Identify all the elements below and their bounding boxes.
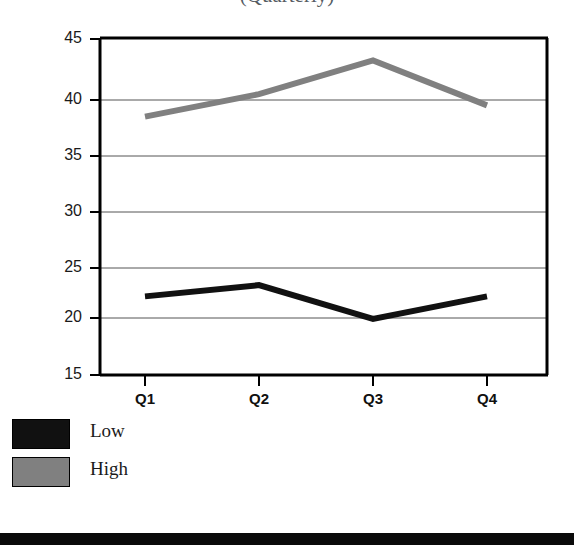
- x-axis-label-q1: Q1: [115, 390, 175, 407]
- y-axis-label-45: 45: [38, 29, 82, 47]
- legend-item-high: High: [12, 455, 252, 493]
- chart-legend: Low High: [12, 417, 252, 493]
- y-axis-label-40: 40: [38, 90, 82, 108]
- page-title-clip: (Quarterly): [0, 0, 574, 14]
- y-axis-label-35: 35: [38, 146, 82, 164]
- plot-svg: [0, 18, 574, 408]
- legend-label-high: High: [90, 458, 128, 480]
- page-edge-artifact: [0, 533, 574, 545]
- x-axis-label-q4: Q4: [457, 390, 517, 407]
- legend-swatch-high: [12, 457, 70, 487]
- x-axis-label-q3: Q3: [343, 390, 403, 407]
- y-axis-label-25: 25: [38, 258, 82, 276]
- plot-background: [100, 38, 548, 375]
- legend-label-low: Low: [90, 420, 125, 442]
- line-chart: 45 40 35 30 25 20 15 Q1 Q2 Q3 Q4: [0, 18, 574, 408]
- y-axis-label-30: 30: [38, 202, 82, 220]
- x-axis-label-q2: Q2: [229, 390, 289, 407]
- x-tick-marks: [145, 375, 487, 386]
- y-axis-label-20: 20: [38, 308, 82, 326]
- legend-item-low: Low: [12, 417, 252, 455]
- y-axis-label-15: 15: [38, 365, 82, 383]
- page-title: (Quarterly): [0, 0, 574, 8]
- legend-swatch-low: [12, 419, 70, 449]
